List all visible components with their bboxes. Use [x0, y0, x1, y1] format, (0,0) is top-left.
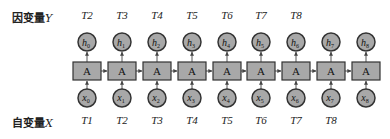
rnn-cell: A — [178, 62, 206, 80]
input-node-x3: x3 — [183, 89, 201, 107]
cell-label: A — [362, 65, 370, 77]
output-node-h0: h0 — [78, 33, 96, 51]
input-node-x0: x0 — [78, 89, 96, 107]
rnn-unrolled-diagram: AAAAAAAAA h0h1h2h3h4h5h6h7h8 x0x1x2x3x4x… — [0, 0, 390, 139]
input-node-x8: x8 — [357, 89, 375, 107]
rnn-cell: A — [143, 62, 171, 80]
input-node-x1: x1 — [113, 89, 131, 107]
cell-label: A — [188, 65, 196, 77]
input-node-x5: x5 — [252, 89, 270, 107]
rnn-cell: A — [282, 62, 310, 80]
cell-label: A — [292, 65, 300, 77]
output-node-h3: h3 — [183, 33, 201, 51]
cell-label: A — [83, 65, 91, 77]
rnn-cell: A — [247, 62, 275, 80]
cell-label: A — [257, 65, 265, 77]
rnn-cell: A — [352, 62, 380, 80]
input-node-x7: x7 — [322, 89, 340, 107]
output-node-h6: h6 — [287, 33, 305, 51]
input-node-x2: x2 — [148, 89, 166, 107]
output-node-h8: h8 — [357, 33, 375, 51]
cell-label: A — [118, 65, 126, 77]
output-node-h7: h7 — [322, 33, 340, 51]
output-nodes: h0h1h2h3h4h5h6h7h8 — [78, 33, 375, 51]
output-node-h2: h2 — [148, 33, 166, 51]
output-node-h4: h4 — [218, 33, 236, 51]
cell-label: A — [223, 65, 231, 77]
rnn-cell: A — [213, 62, 241, 80]
input-node-x4: x4 — [218, 89, 236, 107]
output-node-h1: h1 — [113, 33, 131, 51]
rnn-cells: AAAAAAAAA — [73, 62, 380, 80]
rnn-cell: A — [73, 62, 101, 80]
rnn-cell: A — [317, 62, 345, 80]
cell-label: A — [153, 65, 161, 77]
output-node-h5: h5 — [252, 33, 270, 51]
input-nodes: x0x1x2x3x4x5x6x7x8 — [78, 89, 375, 107]
rnn-cell: A — [108, 62, 136, 80]
input-node-x6: x6 — [287, 89, 305, 107]
cell-label: A — [327, 65, 335, 77]
